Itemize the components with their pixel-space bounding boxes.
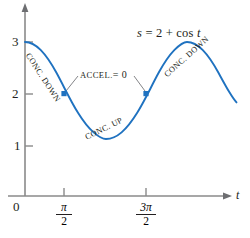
x-axis bbox=[8, 193, 232, 200]
equation-rhs-cos: cos bbox=[176, 26, 193, 40]
y-tick-label-3: 3 bbox=[12, 35, 19, 48]
equation-lhs: s bbox=[137, 26, 142, 40]
x-axis-label: t bbox=[236, 189, 239, 201]
equation-label: s = 2 + cos t bbox=[137, 27, 201, 40]
x-tick-label-3pi-over-2: 3π 2 bbox=[136, 201, 156, 227]
equation-rhs-constant: 2 + bbox=[156, 26, 173, 40]
y-tick-label-2: 2 bbox=[12, 87, 19, 100]
fraction-numerator: 3π bbox=[136, 201, 156, 215]
plot-area bbox=[0, 0, 250, 238]
fraction-numerator: π bbox=[56, 201, 72, 215]
origin-label: 0 bbox=[13, 200, 20, 213]
annotation-accel-zero: ACCEL.= 0 bbox=[80, 70, 127, 80]
concavity-graph-figure: s = 2 + cos t 3 2 1 0 π 2 3π 2 t CONC. D… bbox=[0, 0, 250, 238]
y-axis bbox=[22, 3, 29, 196]
equation-equals: = bbox=[145, 26, 152, 40]
y-tick-label-1: 1 bbox=[14, 139, 21, 152]
x-tick-label-pi-over-2: π 2 bbox=[56, 201, 72, 227]
marker-inflection-right bbox=[143, 91, 148, 96]
x-axis-ticks bbox=[64, 188, 146, 196]
accel-value: = 0 bbox=[113, 69, 127, 80]
marker-inflection-left bbox=[61, 91, 66, 96]
fraction-denominator: 2 bbox=[56, 215, 72, 228]
accel-text: ACCEL. bbox=[80, 70, 113, 80]
fraction-denominator: 2 bbox=[136, 215, 156, 228]
